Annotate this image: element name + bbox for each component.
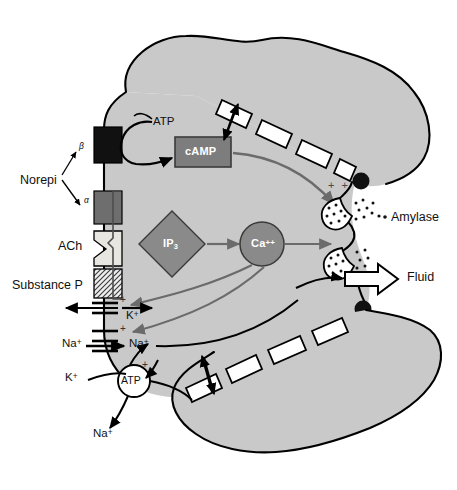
messenger-label-camp: cAMP	[185, 146, 216, 157]
ion-label-k-channel: K+	[126, 310, 139, 322]
messenger-label-calcium: Ca++	[251, 238, 275, 249]
receptor-substance-p[interactable]	[94, 269, 122, 298]
receptor-ach[interactable]	[94, 231, 122, 266]
norepi-leaders	[62, 152, 80, 205]
receptor-beta[interactable]	[94, 127, 122, 163]
product-label-amylase: Amylase	[391, 211, 439, 224]
charge-marker-pump: +	[142, 360, 148, 370]
ligand-label-ach: ACh	[58, 240, 82, 253]
tight-junction-top	[353, 173, 370, 190]
diagram-canvas: Norepi ACh Substance P β α ATP cAMP IP3 …	[0, 0, 457, 490]
product-label-fluid: Fluid	[407, 271, 434, 284]
messenger-label-atp-pump: ATP	[121, 375, 141, 386]
amylase-granules-upper	[355, 199, 381, 221]
ion-label-na-in: Na+	[129, 338, 149, 350]
ion-label-k-out: K+	[65, 372, 78, 384]
ion-label-na-pumped: Na+	[93, 428, 113, 440]
ion-label-na-out: Na+	[62, 338, 82, 350]
messenger-label-atp-cyclase: ATP	[153, 116, 175, 128]
charge-marker-na-channel: +	[120, 324, 126, 334]
receptor-alpha[interactable]	[94, 191, 122, 224]
receptor-subtype-label-alpha: α	[84, 196, 89, 205]
charge-marker-exocytosis: + +	[328, 180, 350, 191]
messenger-label-ip3: IP3	[163, 238, 178, 250]
amylase-leader-dot	[383, 215, 387, 219]
ligand-label-substance-p: Substance P	[12, 279, 83, 292]
charge-marker-k-channel: +	[120, 295, 126, 305]
ligand-label-norepi: Norepi	[20, 174, 57, 187]
receptor-subtype-label-beta: β	[79, 142, 84, 151]
